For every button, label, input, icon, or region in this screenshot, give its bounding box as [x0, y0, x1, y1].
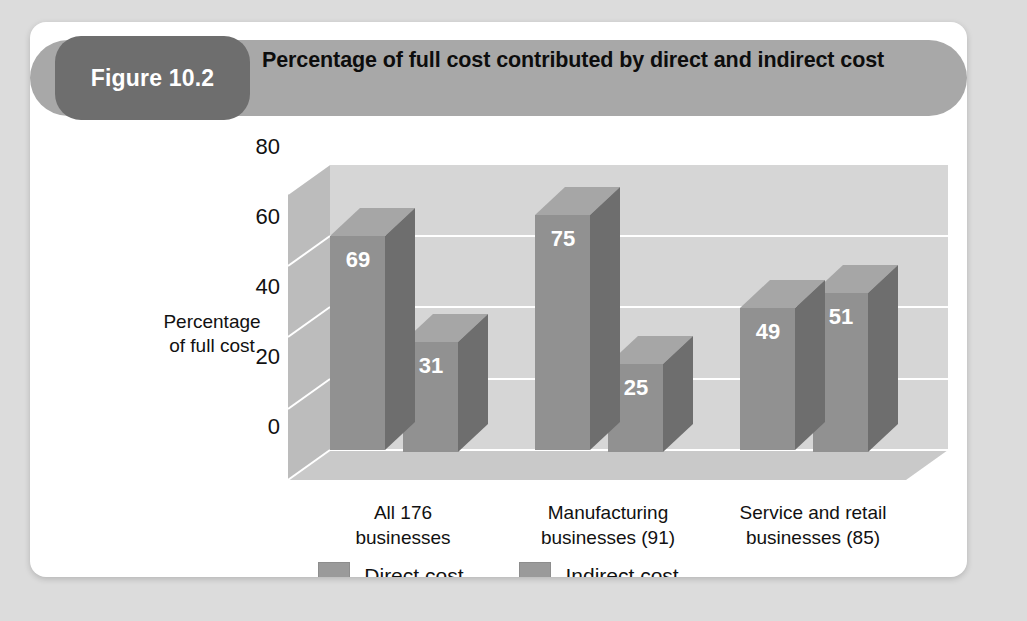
bar-label-g1-indirect: 25	[624, 375, 648, 400]
x-category-1-line2: businesses (91)	[503, 525, 713, 550]
figure-header-bar: Figure 10.2 Percentage of full cost cont…	[30, 40, 967, 116]
y-tick-20: 20	[220, 344, 280, 370]
plot-svg: 69 31 75 25 49 51	[288, 150, 948, 495]
figure-card: Figure 10.2 Percentage of full cost cont…	[30, 22, 967, 577]
legend-swatch-icon-direct	[318, 562, 350, 577]
y-tick-60: 60	[220, 204, 280, 230]
plot-3d: 69 31 75 25 49 51	[288, 150, 948, 495]
bar-g2-indirect	[813, 265, 898, 452]
y-tick-40: 40	[220, 274, 280, 300]
bar-label-g0-indirect: 31	[419, 353, 443, 378]
y-tick-80: 80	[220, 134, 280, 160]
x-category-0-line2: businesses	[298, 525, 508, 550]
x-category-0-line1: All 176	[298, 500, 508, 525]
y-axis-ticks: 0 20 40 60 80	[220, 122, 280, 522]
figure-number-label: Figure 10.2	[91, 65, 215, 92]
floor	[288, 450, 948, 480]
x-category-1-line1: Manufacturing	[503, 500, 713, 525]
page-background: Figure 10.2 Percentage of full cost cont…	[0, 0, 1027, 621]
legend-label-direct: Direct cost	[364, 564, 463, 577]
x-category-2: Service and retail businesses (85)	[708, 500, 918, 550]
bar-g0-indirect	[403, 314, 488, 452]
y-tick-0: 0	[220, 414, 280, 440]
x-category-0: All 176 businesses	[298, 500, 508, 550]
bar-label-g0-direct: 69	[346, 247, 370, 272]
legend-label-indirect: Indirect cost	[565, 564, 678, 577]
figure-number-badge: Figure 10.2	[55, 36, 250, 120]
bar-label-g1-direct: 75	[551, 226, 575, 251]
legend-item-direct-cost: Direct cost	[318, 562, 463, 577]
bar-g1-direct	[535, 187, 620, 450]
x-category-1: Manufacturing businesses (91)	[503, 500, 713, 550]
bar-g0-direct	[330, 208, 415, 450]
figure-title: Percentage of full cost contributed by d…	[262, 47, 922, 73]
x-category-2-line1: Service and retail	[708, 500, 918, 525]
bar-label-g2-indirect: 51	[829, 304, 853, 329]
legend-item-indirect-cost: Indirect cost	[519, 562, 678, 577]
chart-area: Percentage of full cost 0 20 40 60 80	[30, 122, 967, 577]
legend-swatch-icon-indirect	[519, 562, 551, 577]
x-category-2-line2: businesses (85)	[708, 525, 918, 550]
bar-g1-indirect	[608, 336, 693, 452]
bar-g2-direct	[740, 280, 825, 450]
chart-legend: Direct cost Indirect cost	[30, 562, 967, 577]
bar-label-g2-direct: 49	[756, 319, 780, 344]
x-axis-categories: All 176 businesses Manufacturing busines…	[288, 500, 967, 560]
